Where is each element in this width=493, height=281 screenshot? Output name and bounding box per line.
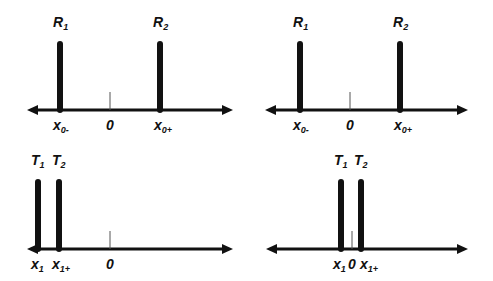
bar-label-t1-subscript: 1	[40, 160, 45, 170]
bar-label-r2-subscript: 2	[162, 22, 168, 32]
bar-label-t1-subscript: 1	[343, 160, 348, 170]
position-label-x0plus: x0+	[393, 117, 413, 135]
right-arrowhead-icon	[222, 105, 233, 115]
left-arrowhead-icon	[27, 105, 38, 115]
panel-bottom-right: 0T1T2x1x1+	[266, 152, 468, 274]
origin-label: 0	[106, 256, 114, 272]
origin-label: 0	[346, 117, 354, 133]
bar-label-r2: R2	[153, 14, 168, 32]
bar-label-r2: R2	[393, 14, 408, 32]
position-label-x0minus-subscript: 0-	[61, 125, 69, 135]
position-label-x0minus: x0-	[292, 117, 309, 135]
bar-label-t2-subscript: 2	[60, 160, 66, 170]
bar-label-r1-subscript: 1	[63, 22, 68, 32]
position-label-x1plus: x1+	[359, 256, 379, 274]
position-label-x0plus-subscript: 0+	[162, 125, 173, 135]
bar-label-t2: T2	[52, 152, 66, 170]
bar-label-r1-subscript: 1	[303, 22, 308, 32]
bar-label-r1: R1	[53, 14, 68, 32]
position-label-x0minus: x0-	[52, 117, 69, 135]
bar-label-t1: T1	[31, 152, 45, 170]
position-label-x1plus-subscript: 1+	[368, 264, 379, 274]
position-label-x0minus-subscript: 0-	[301, 125, 309, 135]
bar-label-t1: T1	[334, 152, 348, 170]
position-label-x1: x1	[332, 256, 346, 274]
panel-top-right: 0R1R2x0-x0+	[265, 14, 468, 135]
bar-label-t2: T2	[354, 152, 368, 170]
position-label-x1plus: x1+	[51, 256, 71, 274]
bar-label-r1: R1	[293, 14, 308, 32]
origin-label: 0	[348, 256, 356, 272]
diagram-canvas: 0R1R2x0-x0+0R1R2x0-x0+0T1T2x1x1+0T1T2x1x…	[0, 0, 493, 281]
left-arrowhead-icon	[266, 244, 277, 254]
position-label-x0plus: x0+	[153, 117, 173, 135]
right-arrowhead-icon	[457, 105, 468, 115]
bar-label-r2-subscript: 2	[402, 22, 408, 32]
position-label-x1-subscript: 1	[39, 264, 44, 274]
bar-label-t2-subscript: 2	[362, 160, 368, 170]
panel-top-left: 0R1R2x0-x0+	[27, 14, 233, 135]
panel-bottom-left: 0T1T2x1x1+	[27, 152, 233, 274]
position-label-x0plus-subscript: 0+	[402, 125, 413, 135]
right-arrowhead-icon	[457, 244, 468, 254]
left-arrowhead-icon	[265, 105, 276, 115]
origin-label: 0	[106, 117, 114, 133]
position-label-x1-subscript: 1	[341, 264, 346, 274]
position-label-x1: x1	[30, 256, 44, 274]
position-label-x1plus-subscript: 1+	[60, 264, 71, 274]
right-arrowhead-icon	[222, 244, 233, 254]
